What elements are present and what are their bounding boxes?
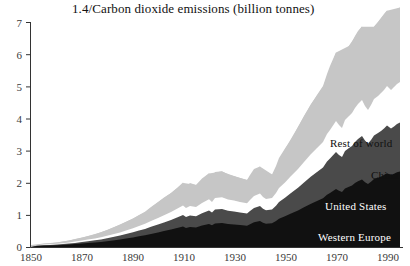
series-label-china: China [371,169,398,181]
y-tick-label-6: 6 [17,49,23,61]
chart-svg: 0 1 2 3 4 5 6 7 1850 1870 1890 1910 1930… [0,0,410,266]
series-label-rest-of-world: Rest of world [330,137,393,149]
y-tick-label-3: 3 [17,145,23,157]
y-tick-label-7: 7 [17,17,23,29]
y-tick-label-4: 4 [17,113,23,125]
chart-container: 1.4/Carbon dioxide emissions (billion to… [0,0,410,266]
x-tick-label-1950: 1950 [275,251,298,263]
y-tick-label-2: 2 [17,177,23,189]
y-tick-label-5: 5 [17,81,23,93]
x-tick-label-1910: 1910 [173,251,196,263]
x-tick-label-1930: 1930 [224,251,247,263]
x-tick-label-1850: 1850 [20,251,43,263]
y-tick-label-1: 1 [17,209,23,221]
x-tick-label-1970: 1970 [326,251,349,263]
x-tick-label-1870: 1870 [71,251,94,263]
series-label-western-europe: Western Europe [318,231,391,243]
series-label-united-states: United States [325,200,387,212]
x-tick-label-1890: 1890 [122,251,145,263]
x-tick-label-1990: 1990 [377,251,400,263]
